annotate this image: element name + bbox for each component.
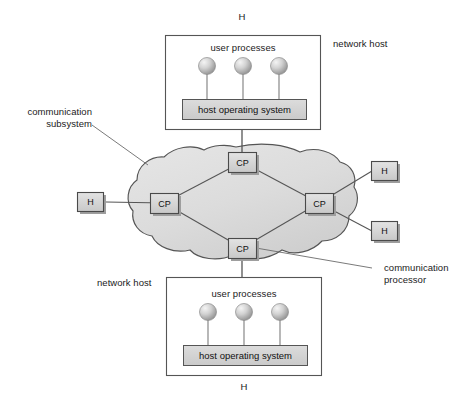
user-process-sphere — [235, 58, 252, 75]
user-process-sphere — [200, 304, 217, 321]
network-host-label-top: network host — [333, 38, 387, 51]
user-processes-label-top: user processes — [183, 42, 303, 55]
communication-subsystem-label-line2: subsystem — [0, 118, 92, 131]
cp-node-top[interactable] — [229, 153, 260, 176]
host-terminal-label-bottom: H — [224, 381, 264, 394]
host-operating-system-box-bottom — [184, 346, 308, 366]
network-architecture-diagram: H network host user processes host opera… — [0, 0, 475, 405]
user-process-sphere — [272, 304, 289, 321]
host-terminal-label-top: H — [222, 11, 262, 24]
user-process-sphere — [236, 304, 253, 321]
cp-node-right[interactable] — [306, 194, 337, 217]
network-host-label-bottom: network host — [97, 277, 151, 290]
leader-line-communication-processor — [256, 248, 372, 268]
leader-line-communication-subsystem — [92, 125, 148, 165]
host-operating-system-box-top — [183, 100, 307, 120]
terminal-node-h-right-lower[interactable] — [372, 222, 401, 244]
terminal-node-h-left[interactable] — [78, 193, 107, 215]
user-process-sphere — [199, 58, 216, 75]
cp-node-left[interactable] — [151, 194, 182, 217]
communication-processor-label-line2: processor — [384, 274, 426, 287]
communication-subsystem-label-line1: communication — [0, 106, 92, 119]
communication-processor-label-line1: communication — [384, 262, 449, 275]
user-process-sphere — [271, 58, 288, 75]
terminal-node-h-right-upper[interactable] — [372, 162, 401, 184]
cp-node-bottom[interactable] — [229, 239, 260, 262]
user-processes-label-bottom: user processes — [184, 288, 304, 301]
diagram-canvas — [0, 0, 475, 405]
